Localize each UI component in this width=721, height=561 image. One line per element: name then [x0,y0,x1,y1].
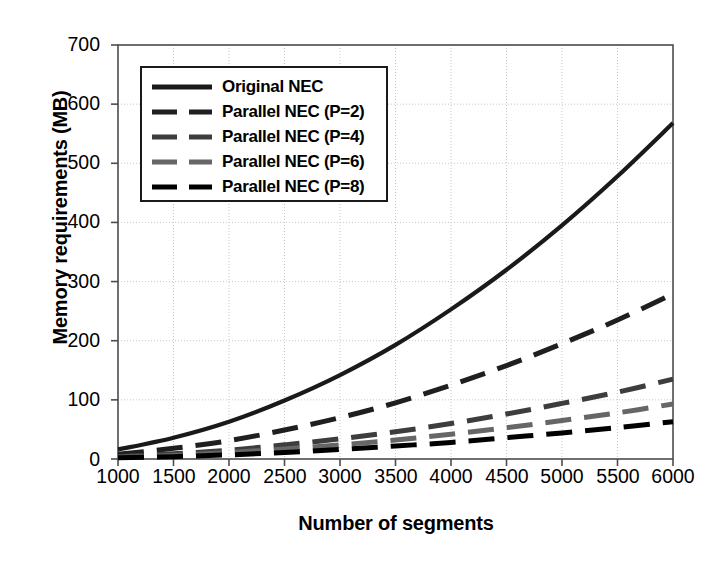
legend-item-parallel-nec-p2: Parallel NEC (P=2) [142,99,386,124]
legend-item-parallel-nec-p4: Parallel NEC (P=4) [142,124,386,149]
legend-line-sample-dashed-p4 [151,130,213,144]
legend-label: Parallel NEC (P=8) [222,177,364,197]
legend-line-sample-solid [151,80,213,94]
chart-figure: Memory requirements (MB) 700 600 500 400… [0,0,721,561]
legend-label: Parallel NEC (P=2) [222,102,364,122]
legend-label: Parallel NEC (P=6) [222,152,364,172]
legend-line-sample-dashed-p8 [151,180,213,194]
legend-label: Original NEC [222,77,323,97]
legend-item-original-nec: Original NEC [142,74,386,99]
legend-item-parallel-nec-p6: Parallel NEC (P=6) [142,149,386,174]
legend-line-sample-dashed-p6 [151,155,213,169]
legend: Original NEC Parallel NEC (P=2) Parallel… [140,66,388,202]
legend-line-sample-dashed-p2 [151,105,213,119]
legend-item-parallel-nec-p8: Parallel NEC (P=8) [142,174,386,199]
legend-label: Parallel NEC (P=4) [222,127,364,147]
